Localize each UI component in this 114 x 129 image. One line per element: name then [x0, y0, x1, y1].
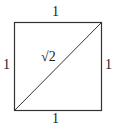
diagonal-line: [15, 23, 102, 111]
diagonal-label: √2: [41, 50, 56, 64]
right-side-label: 1: [105, 58, 112, 72]
bottom-side-label: 1: [52, 112, 59, 126]
left-side-label: 1: [3, 58, 10, 72]
top-side-label: 1: [52, 5, 59, 19]
square-diagram: [0, 0, 114, 129]
